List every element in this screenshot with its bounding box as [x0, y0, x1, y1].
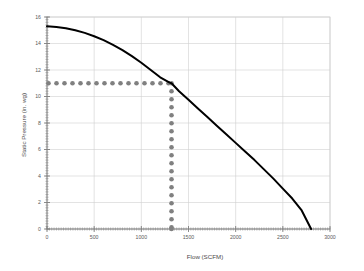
guide-dot [134, 81, 139, 86]
guide-dot [169, 193, 174, 198]
y-tick-label: 14 [35, 40, 41, 46]
guide-dot [169, 129, 174, 134]
guide-dot [169, 137, 174, 142]
guide-dot [169, 89, 174, 94]
x-tick-label: 500 [90, 234, 99, 240]
y-tick-label: 16 [35, 14, 41, 20]
x-tick-label: 0 [46, 234, 49, 240]
guide-dot [169, 209, 174, 214]
guide-dot [78, 81, 83, 86]
fan-performance-chart: 0246810121416050010001500200025003000 Fl… [0, 0, 364, 271]
guide-dot [169, 105, 174, 110]
guide-dot [169, 177, 174, 182]
guide-dot [169, 113, 174, 118]
guide-dot [169, 161, 174, 166]
y-tick-label: 0 [38, 226, 41, 232]
y-tick-label: 4 [38, 173, 41, 179]
y-tick-label: 8 [38, 120, 41, 126]
x-tick-label: 2000 [230, 234, 242, 240]
y-tick-label: 12 [35, 67, 41, 73]
y-tick-label: 2 [38, 199, 41, 205]
guide-dot [169, 145, 174, 150]
guide-dot [94, 81, 99, 86]
x-tick-label: 2500 [277, 234, 289, 240]
chart-background [0, 0, 364, 271]
guide-dot [54, 81, 59, 86]
guide-dot [86, 81, 91, 86]
guide-dot [169, 185, 174, 190]
guide-dot [150, 81, 155, 86]
guide-dot [118, 81, 123, 86]
x-tick-label: 1000 [136, 234, 148, 240]
guide-dot [126, 81, 131, 86]
y-tick-label: 10 [35, 93, 41, 99]
guide-dot [169, 121, 174, 126]
y-axis-title: Static Pressure (in. wg) [20, 93, 27, 157]
guide-dot [158, 81, 163, 86]
x-axis-title: Flow (SCFM) [187, 253, 223, 260]
x-tick-label: 3000 [324, 234, 336, 240]
x-tick-label: 1500 [183, 234, 195, 240]
guide-dot [142, 81, 147, 86]
guide-dot [102, 81, 107, 86]
chart-figure: 0246810121416050010001500200025003000 Fl… [0, 0, 364, 271]
guide-dot [70, 81, 75, 86]
guide-dot [169, 153, 174, 158]
guide-dot [169, 97, 174, 102]
guide-dot [169, 217, 174, 222]
guide-dot [110, 81, 115, 86]
guide-dot [169, 169, 174, 174]
y-tick-label: 6 [38, 146, 41, 152]
guide-dot [169, 201, 174, 206]
guide-dot [62, 81, 67, 86]
guide-dot [46, 81, 51, 86]
